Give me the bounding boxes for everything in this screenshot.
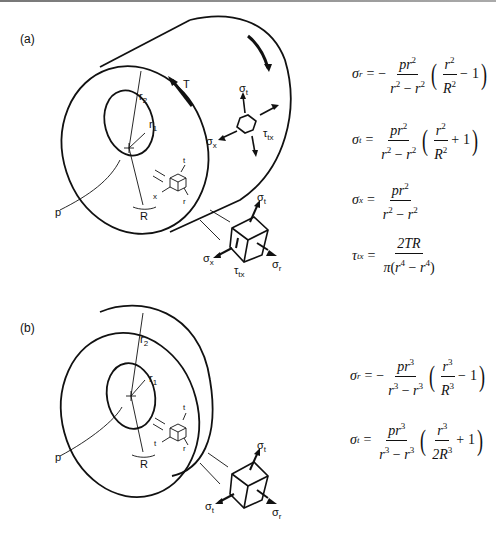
equation-sigma-t-a: σt = pr2r2 − r2 ( r2R2 +1 ): [352, 118, 480, 162]
svg-text:t: t: [183, 403, 186, 412]
svg-text:t: t: [183, 156, 186, 165]
p-label: p: [55, 206, 61, 218]
svg-text:t: t: [154, 439, 157, 448]
sigma-t-label-b2: σt: [205, 500, 215, 515]
svg-text:r: r: [183, 444, 186, 453]
R-label: R: [140, 210, 148, 222]
equation-sigma-r-a: σr =− pr2r2 − r2 ( r2R2 −1 ): [352, 52, 489, 96]
svg-text:x: x: [153, 192, 157, 201]
sigma-r-label: σr: [272, 258, 282, 273]
p-label-b: p: [55, 451, 61, 463]
equation-sigma-x-a: σx = pr2r2 − r2: [352, 178, 422, 222]
R-label-b: R: [140, 458, 148, 470]
sigma-r-label-b: σr: [272, 506, 282, 521]
tau-tx-label-2: τtx: [234, 264, 245, 279]
panel-b-label: (b): [20, 321, 35, 335]
torque-label: T: [183, 78, 190, 90]
r2-label-b: r2: [140, 333, 149, 348]
equation-tau-tx-a: τtx = 2TRπ(r4 − r4): [352, 236, 439, 276]
r2-label: r2: [139, 90, 148, 105]
svg-text:r: r: [183, 197, 186, 206]
r1-label-b: r1: [149, 372, 158, 387]
panel-a-label: (a): [20, 32, 35, 46]
sigma-x-label-2: σx: [203, 252, 214, 267]
tau-tx-label: τtx: [263, 127, 274, 142]
equation-sigma-r-b: σr =− pr3r3 − r3 ( r3R3 −1 ): [350, 354, 487, 398]
torque-arrow-head-2: [264, 64, 272, 72]
equation-sigma-t-b: σt = pr3r3 − r3 ( r32R3 +1 ): [350, 418, 485, 462]
